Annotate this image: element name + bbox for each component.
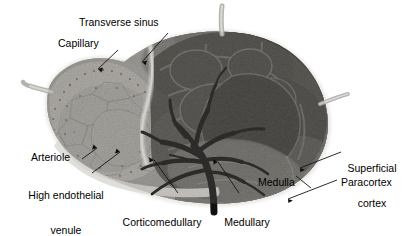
label-arteriole: Arteriole — [31, 152, 70, 164]
label-corticomedullary-junction: Corticomedullary junction — [104, 194, 220, 236]
label-medulla: Medulla — [258, 177, 295, 189]
label-medullary-venule-line1: Medullary — [213, 217, 281, 229]
label-capillary: Capillary — [58, 38, 99, 50]
label-transverse-sinus: Transverse sinus — [79, 17, 159, 29]
label-superficial-cortex-line2: cortex — [340, 198, 404, 210]
label-medullary-venule: Medullary venule — [213, 194, 281, 236]
label-superficial-cortex-line1: Superficial — [340, 163, 404, 175]
lymph-node-figure: Transverse sinus Capillary Arteriole Hig… — [0, 0, 408, 236]
label-corticomedullary-junction-line1: Corticomedullary — [104, 217, 220, 229]
label-paracortex: Paracortex — [341, 177, 392, 189]
